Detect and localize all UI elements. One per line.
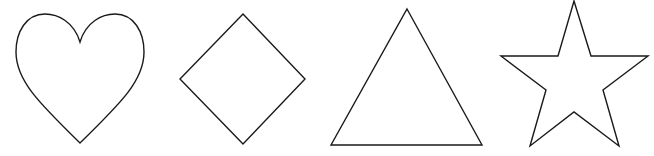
shapes-svg — [0, 0, 654, 156]
shapes-canvas — [0, 0, 654, 156]
triangle-shape — [331, 9, 482, 145]
heart-shape — [16, 14, 144, 143]
star-shape — [501, 1, 648, 146]
diamond-shape — [180, 14, 305, 144]
